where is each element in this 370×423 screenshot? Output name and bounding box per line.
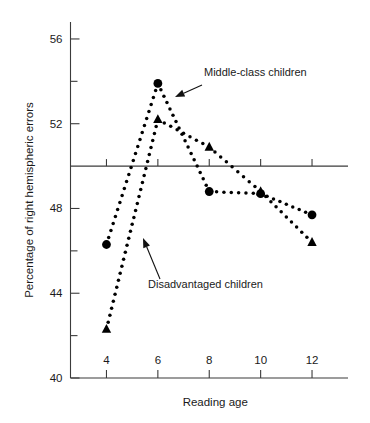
- line-dot: [122, 258, 126, 262]
- line-dot: [201, 142, 205, 146]
- line-dot: [230, 191, 234, 195]
- line-dot: [201, 177, 205, 181]
- y-tick-label-40: 40: [50, 372, 63, 384]
- x-tick-label-6: 6: [155, 354, 161, 366]
- line-dot: [125, 244, 128, 248]
- line-dot: [151, 139, 155, 143]
- line-dot: [252, 192, 256, 196]
- line-dot: [120, 265, 124, 269]
- line-dot: [213, 150, 217, 154]
- line-dot: [142, 174, 146, 178]
- line-dot: [304, 210, 308, 214]
- line-dot: [115, 286, 119, 290]
- line-dot: [225, 160, 229, 164]
- line-dot: [169, 125, 173, 129]
- line-dot: [136, 145, 140, 149]
- line-dot: [145, 117, 149, 121]
- line-dot: [186, 145, 190, 149]
- line-dot: [137, 195, 141, 199]
- line-dot: [146, 160, 150, 164]
- line-dot: [291, 205, 295, 209]
- line-dot: [134, 152, 138, 156]
- x-tick-label-10: 10: [254, 354, 267, 366]
- line-dot: [117, 279, 121, 283]
- line-dot: [264, 195, 268, 199]
- line-dot: [125, 180, 129, 184]
- line-dot: [134, 209, 138, 213]
- data-point-circle: [308, 210, 317, 219]
- line-dot: [144, 167, 148, 171]
- line-dot: [120, 194, 124, 198]
- line-dot: [140, 131, 144, 135]
- data-point-triangle: [205, 142, 214, 151]
- line-dot: [182, 132, 186, 136]
- data-point-circle: [153, 79, 162, 88]
- line-dot: [111, 222, 115, 226]
- data-point-triangle: [307, 237, 316, 246]
- line-dot: [127, 173, 131, 177]
- line-dot: [163, 121, 167, 125]
- line-dot: [108, 314, 112, 318]
- line-dot: [285, 202, 289, 206]
- line-dot: [118, 272, 122, 276]
- line-dot: [171, 113, 175, 117]
- line-dot: [269, 200, 273, 204]
- line-dot: [174, 120, 178, 124]
- chart-canvas: 4044485256 4681012 Middle-class children…: [0, 0, 370, 423]
- line-dot: [124, 251, 128, 255]
- data-point-triangle: [102, 324, 111, 333]
- line-dot: [230, 165, 234, 169]
- line-dot: [290, 220, 294, 224]
- line-dot: [295, 225, 299, 229]
- data-series-layer: [102, 79, 317, 333]
- line-dot: [107, 236, 111, 240]
- annotation-label: Disadvantaged children: [148, 278, 263, 290]
- line-dot: [300, 230, 304, 234]
- line-dot: [274, 205, 278, 209]
- line-dot: [272, 197, 276, 201]
- line-dot: [305, 236, 309, 240]
- data-point-circle: [205, 187, 214, 196]
- y-axis-tickmarks: [71, 39, 80, 378]
- line-dot: [279, 210, 283, 214]
- line-dot: [247, 180, 251, 184]
- line-dot: [278, 200, 282, 204]
- line-dot: [129, 230, 133, 234]
- annotation-arrow-head: [175, 90, 185, 97]
- line-dot: [106, 321, 110, 325]
- line-dot: [127, 237, 131, 241]
- y-tick-label-56: 56: [50, 33, 63, 45]
- line-dot: [110, 307, 114, 311]
- line-dot: [149, 103, 153, 107]
- line-dot: [136, 202, 140, 206]
- line-dot: [222, 190, 226, 194]
- line-dot: [148, 153, 152, 157]
- line-dot: [168, 107, 172, 111]
- x-axis-tick-labels: 4681012: [103, 354, 318, 366]
- line-dot: [253, 185, 257, 189]
- line-dot: [152, 96, 156, 100]
- line-dot: [242, 175, 246, 179]
- line-dot: [244, 191, 248, 195]
- line-dot: [147, 110, 151, 114]
- x-tick-label-4: 4: [103, 354, 110, 366]
- line-dot: [132, 159, 136, 163]
- y-tick-label-44: 44: [50, 287, 63, 299]
- line-dot: [188, 135, 192, 139]
- annotation-arrow-head: [143, 238, 150, 248]
- line-dot: [192, 158, 196, 162]
- line-dot: [154, 89, 158, 93]
- x-tick-label-12: 12: [306, 354, 319, 366]
- line-dot: [159, 88, 163, 92]
- line-dot: [165, 101, 169, 105]
- x-tick-label-8: 8: [206, 354, 212, 366]
- line-dot: [116, 208, 120, 212]
- line-dot: [109, 229, 113, 233]
- line-dot: [114, 215, 118, 219]
- data-point-triangle: [256, 186, 265, 195]
- annotation-arrow-line: [147, 247, 160, 279]
- series-disadvantaged: [102, 114, 317, 333]
- y-axis-title: Percentage of right hemispheric errors: [23, 102, 35, 298]
- line-dot: [153, 132, 157, 136]
- annotation-layer: Middle-class childrenDisadvantaged child…: [143, 66, 307, 290]
